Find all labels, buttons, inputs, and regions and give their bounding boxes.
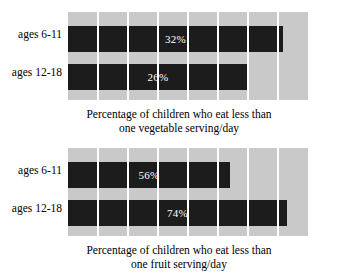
gridline (277, 148, 279, 236)
gridline (97, 148, 99, 236)
bar-chart-figure: 32% 26% ages 6-11 ages 12-18 Percentage … (0, 0, 340, 280)
bar-ages-6-11: 56% (68, 162, 230, 188)
gridline (217, 148, 219, 236)
bar-value-label: 26% (148, 72, 169, 83)
gridline (127, 12, 129, 100)
gridline (247, 12, 249, 100)
plot-area-fruit: 56% 74% (68, 148, 308, 236)
category-label-ages-6-11: ages 6-11 (0, 29, 62, 41)
gridline (277, 12, 279, 100)
bar-ages-6-11: 32% (68, 26, 283, 52)
caption-line-1: Percentage of children who eat less than (48, 244, 310, 258)
gridline (97, 12, 99, 100)
gridline (157, 148, 159, 236)
category-label-ages-6-11: ages 6-11 (0, 165, 62, 177)
gridline (157, 12, 159, 100)
bar-value-label: 32% (165, 34, 186, 45)
plot-area-vegetable: 32% 26% (68, 12, 308, 100)
caption-line-2: one fruit serving/day (48, 258, 310, 272)
bar-ages-12-18: 74% (68, 200, 287, 226)
caption-line-1: Percentage of children who eat less than (48, 108, 310, 122)
caption-line-2: one vegetable serving/day (48, 122, 310, 136)
gridline (187, 148, 189, 236)
bar-value-label: 74% (167, 208, 188, 219)
gridline (187, 12, 189, 100)
vegetable-chart: 32% 26% ages 6-11 ages 12-18 Percentage … (0, 6, 340, 138)
chart-caption-vegetable: Percentage of children who eat less than… (48, 108, 310, 135)
gridline (217, 12, 219, 100)
gridline (247, 148, 249, 236)
category-label-ages-12-18: ages 12-18 (0, 67, 62, 79)
chart-caption-fruit: Percentage of children who eat less than… (48, 244, 310, 271)
category-label-ages-12-18: ages 12-18 (0, 203, 62, 215)
bar-value-label: 56% (139, 170, 160, 181)
gridline (127, 148, 129, 236)
fruit-chart: 56% 74% ages 6-11 ages 12-18 Percentage … (0, 142, 340, 278)
